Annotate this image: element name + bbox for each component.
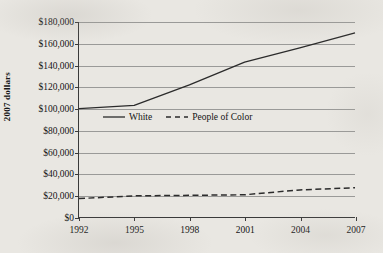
- x-tick-label: 1995: [125, 225, 144, 235]
- chart-legend: White People of Color: [103, 112, 252, 122]
- x-tick-mark: [245, 217, 246, 221]
- y-tick-label: $80,000: [43, 126, 74, 136]
- x-tick-label: 2001: [236, 225, 255, 235]
- x-tick-mark: [134, 217, 135, 221]
- x-tick-mark: [301, 217, 302, 221]
- x-tick-mark: [79, 217, 80, 221]
- legend-swatch-solid-icon: [103, 113, 125, 121]
- y-tick-label: $100,000: [38, 104, 74, 114]
- series-line-white: [79, 33, 355, 109]
- y-axis-title: 2007 dollars: [2, 72, 18, 121]
- y-tick-label: $0: [65, 213, 75, 223]
- y-tick-label: $40,000: [43, 169, 74, 179]
- x-tick-label: 2004: [291, 225, 310, 235]
- legend-item-people-of-color: People of Color: [166, 112, 252, 122]
- y-tick-label: $20,000: [43, 191, 74, 201]
- x-tick-mark: [356, 217, 357, 221]
- line-chart-figure: 2007 dollars $0$20,000$40,000$60,000$80,…: [0, 0, 383, 253]
- x-tick-label: 2007: [347, 225, 366, 235]
- x-tick-label: 1998: [180, 225, 199, 235]
- y-tick-label: $120,000: [38, 82, 74, 92]
- series-line-people-of-color: [79, 188, 355, 199]
- y-tick-label: $60,000: [43, 148, 74, 158]
- y-tick-label: $180,000: [38, 17, 74, 27]
- y-tick-label: $140,000: [38, 61, 74, 71]
- legend-label-white: White: [129, 112, 152, 122]
- x-tick-label: 1992: [70, 225, 89, 235]
- legend-item-white: White: [103, 112, 152, 122]
- x-tick-mark: [190, 217, 191, 221]
- y-tick-label: $160,000: [38, 39, 74, 49]
- legend-label-people-of-color: People of Color: [192, 112, 252, 122]
- legend-swatch-dashed-icon: [166, 113, 188, 121]
